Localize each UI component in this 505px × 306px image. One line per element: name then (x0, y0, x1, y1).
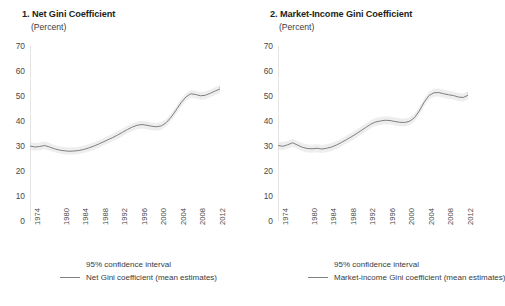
plot-area: 0102030405060701974198019841988199219962… (30, 46, 220, 221)
x-axis-tick-label: 1984 (330, 208, 338, 225)
legend-item: Net Gini coefficient (mean estimates) (60, 271, 250, 284)
legend-item: Market-income Gini coefficient (mean est… (308, 271, 498, 284)
y-axis-tick-label: 40 (249, 117, 273, 125)
legend-label: Market-income Gini coefficient (mean est… (334, 273, 505, 282)
x-axis-tick-label: 1984 (82, 208, 90, 225)
y-axis-tick-label: 50 (1, 92, 25, 100)
y-axis-tick-label: 30 (1, 142, 25, 150)
mean-line-swatch (60, 277, 80, 278)
y-axis-tick-label: 20 (1, 167, 25, 175)
legend: 95% confidence interval Market-income Gi… (308, 258, 498, 284)
x-axis-tick-label: 2008 (199, 208, 207, 225)
y-axis-tick-label: 10 (249, 192, 273, 200)
panel-title: 1. Net Gini Coefficient (22, 9, 115, 19)
chart-svg (30, 46, 220, 221)
x-axis-tick-label: 2012 (219, 208, 227, 225)
y-axis-tick-label: 70 (1, 42, 25, 50)
chart-panel-net-gini: 1. Net Gini Coefficient (Percent) 010203… (0, 0, 248, 306)
data-line (30, 89, 220, 151)
x-axis-tick-label: 2008 (447, 208, 455, 225)
x-axis-tick-label: 2000 (160, 208, 168, 225)
y-axis-tick-label: 60 (1, 67, 25, 75)
y-axis-tick-label: 50 (249, 92, 273, 100)
x-axis-tick-label: 2004 (180, 208, 188, 225)
x-axis-tick-label: 1996 (389, 208, 397, 225)
x-axis-tick-label: 1992 (121, 208, 129, 225)
y-axis-tick-label: 20 (249, 167, 273, 175)
legend-item: 95% confidence interval (308, 258, 498, 271)
y-axis-tick-label: 40 (1, 117, 25, 125)
legend-label: 95% confidence interval (334, 260, 419, 269)
mean-line-swatch (308, 277, 328, 278)
legend: 95% confidence interval Net Gini coeffic… (60, 258, 250, 284)
x-axis-tick-label: 1974 (34, 208, 42, 225)
legend-label: Net Gini coefficient (mean estimates) (86, 273, 217, 282)
y-axis-tick-label: 30 (249, 142, 273, 150)
panel-units-label: (Percent) (31, 22, 66, 32)
y-axis-tick-label: 0 (249, 217, 273, 225)
confidence-band (278, 89, 468, 154)
confidence-band (30, 85, 220, 155)
panel-units-label: (Percent) (279, 22, 314, 32)
confidence-band-swatch (60, 262, 80, 267)
x-axis-tick-label: 1988 (102, 208, 110, 225)
y-axis-tick-label: 60 (249, 67, 273, 75)
x-axis-tick-label: 1980 (311, 208, 319, 225)
y-axis-tick-label: 70 (249, 42, 273, 50)
x-axis-tick-label: 1988 (350, 208, 358, 225)
legend-item: 95% confidence interval (60, 258, 250, 271)
legend-label: 95% confidence interval (86, 260, 171, 269)
x-axis-tick-label: 1974 (282, 208, 290, 225)
x-axis-tick-label: 2000 (408, 208, 416, 225)
x-axis-tick-label: 2004 (428, 208, 436, 225)
x-axis-tick-label: 1992 (369, 208, 377, 225)
x-axis-tick-label: 2012 (467, 208, 475, 225)
y-axis-tick-label: 10 (1, 192, 25, 200)
plot-area: 0102030405060701974198019841988199219962… (278, 46, 468, 221)
chart-svg (278, 46, 468, 221)
x-axis-tick-label: 1980 (63, 208, 71, 225)
chart-panel-market-income-gini: 2. Market-Income Gini Coefficient (Perce… (248, 0, 496, 306)
confidence-band-swatch (308, 262, 328, 267)
y-axis-tick-label: 0 (1, 217, 25, 225)
panel-title: 2. Market-Income Gini Coefficient (270, 9, 412, 19)
x-axis-tick-label: 1996 (141, 208, 149, 225)
